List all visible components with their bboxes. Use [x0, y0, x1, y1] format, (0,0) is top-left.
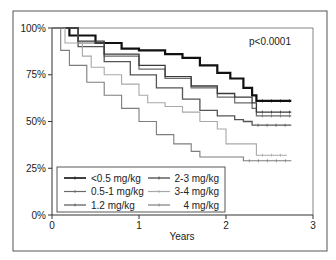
x-axis-label: Years	[169, 231, 194, 242]
y-tick-label: 100%	[20, 23, 46, 34]
legend-label: 2-3 mg/kg	[175, 173, 219, 184]
legend-label: <0.5 mg/kg	[91, 173, 141, 184]
legend-label: 3-4 mg/kg	[175, 186, 219, 197]
x-tick-label: 1	[136, 220, 142, 231]
legend-label: 1.2 mg/kg	[91, 200, 135, 211]
y-tick-label: 75%	[26, 69, 46, 80]
legend: <0.5 mg/kg2-3 mg/kg0.5-1 mg/kg3-4 mg/kg1…	[57, 167, 225, 212]
p-value-annotation: p<0.0001	[249, 36, 291, 47]
legend-label: 4 mg/kg	[183, 200, 219, 211]
x-tick-label: 3	[310, 220, 316, 231]
legend-label: 0.5-1 mg/kg	[91, 186, 144, 197]
x-tick-label: 0	[49, 220, 55, 231]
y-tick-label: 50%	[26, 116, 46, 127]
y-tick-label: 25%	[26, 163, 46, 174]
x-tick-label: 2	[223, 220, 229, 231]
survival-chart: 0%25%50%75%100% 0123 Years p<0.0001 <0.5…	[0, 0, 336, 260]
y-tick-label: 0%	[32, 210, 47, 221]
